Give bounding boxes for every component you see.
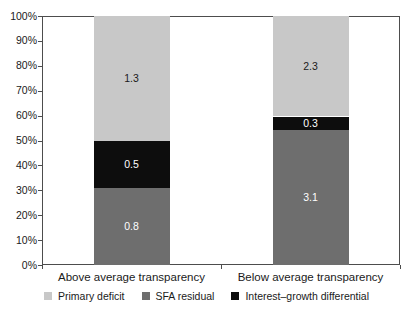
y-tick-mark bbox=[38, 240, 42, 241]
bar-segment: 0.3 bbox=[273, 117, 349, 130]
y-tick-label: 40% bbox=[0, 159, 37, 172]
y-tick-label: 100% bbox=[0, 10, 37, 23]
x-category-label: Below average transparency bbox=[221, 271, 400, 283]
legend-label: Interest–growth differential bbox=[245, 290, 369, 302]
legend-swatch-icon bbox=[44, 292, 52, 300]
bar-segment: 1.3 bbox=[94, 16, 170, 141]
y-tick-label: 0% bbox=[0, 259, 37, 272]
x-tick-mark bbox=[400, 265, 401, 269]
segment-value-label: 2.3 bbox=[303, 61, 318, 72]
y-tick-label: 70% bbox=[0, 84, 37, 97]
y-tick-label: 80% bbox=[0, 59, 37, 72]
legend-label: Primary deficit bbox=[58, 290, 125, 302]
bar-segment: 0.5 bbox=[94, 141, 170, 189]
bar: 0.80.51.3 bbox=[94, 16, 170, 265]
y-tick-label: 20% bbox=[0, 209, 37, 222]
y-tick-mark bbox=[38, 16, 42, 17]
y-tick-mark bbox=[38, 215, 42, 216]
legend-swatch-icon bbox=[231, 292, 239, 300]
y-tick-mark bbox=[38, 165, 42, 166]
y-tick-label: 30% bbox=[0, 184, 37, 197]
legend-item: Interest–growth differential bbox=[231, 290, 369, 302]
legend-swatch-icon bbox=[142, 292, 150, 300]
x-tick-mark bbox=[221, 265, 222, 269]
bar-segment: 0.8 bbox=[94, 188, 170, 265]
legend: Primary deficitSFA residualInterest–grow… bbox=[0, 290, 413, 302]
segment-value-label: 0.5 bbox=[124, 159, 139, 170]
segment-value-label: 3.1 bbox=[303, 192, 318, 203]
bar-segment: 2.3 bbox=[273, 16, 349, 116]
x-tick-mark bbox=[42, 265, 43, 269]
legend-label: SFA residual bbox=[156, 290, 215, 302]
bar: 3.10.32.3 bbox=[273, 16, 349, 265]
y-tick-mark bbox=[38, 116, 42, 117]
segment-value-label: 1.3 bbox=[124, 73, 139, 84]
stacked-bar-chart: 0%10%20%30%40%50%60%70%80%90%100% Above … bbox=[0, 0, 413, 322]
y-tick-label: 50% bbox=[0, 134, 37, 147]
y-tick-label: 90% bbox=[0, 34, 37, 47]
y-tick-mark bbox=[38, 41, 42, 42]
legend-item: SFA residual bbox=[142, 290, 215, 302]
y-tick-mark bbox=[38, 91, 42, 92]
y-tick-mark bbox=[38, 141, 42, 142]
y-tick-mark bbox=[38, 66, 42, 67]
bar-segment: 3.1 bbox=[273, 130, 349, 265]
y-tick-label: 60% bbox=[0, 109, 37, 122]
x-category-label: Above average transparency bbox=[42, 271, 221, 283]
segment-value-label: 0.3 bbox=[303, 118, 318, 129]
y-tick-label: 10% bbox=[0, 234, 37, 247]
segment-value-label: 0.8 bbox=[124, 221, 139, 232]
y-tick-mark bbox=[38, 190, 42, 191]
legend-item: Primary deficit bbox=[44, 290, 125, 302]
